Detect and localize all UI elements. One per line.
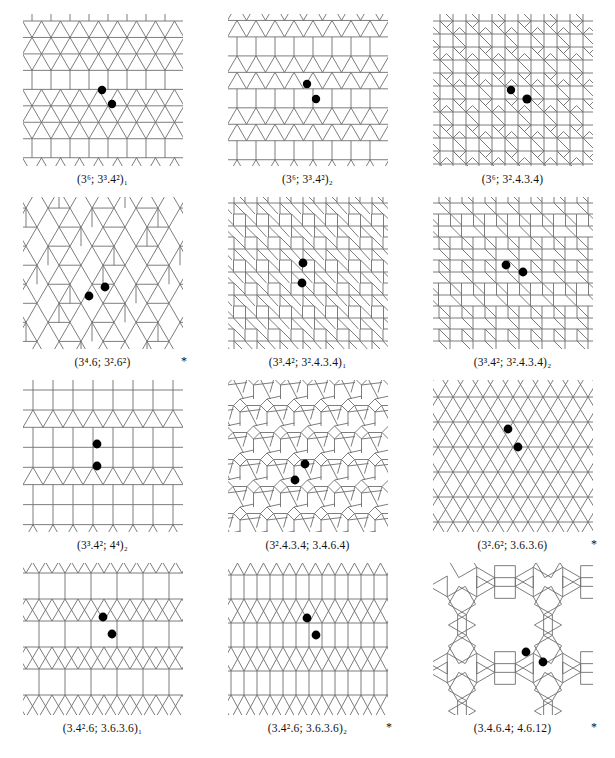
tiling-edge [577,318,588,329]
tiling-edge [326,329,337,340]
tiling-edge [228,563,231,575]
tiling-edge [81,341,92,349]
tiling-edge [368,433,379,454]
tiling-edge [52,563,65,573]
tiling-edge [136,322,147,341]
tiling-edge [245,226,256,237]
tiling-edge [341,72,351,88]
tiling-edge [459,151,466,158]
tiling-edge [246,108,256,124]
tiling-edge [37,208,48,227]
tiling-edge [314,453,321,460]
tiling-edge [485,197,496,202]
tiling-edge [81,265,92,284]
tiling-edge [108,54,118,70]
tiling-edge [576,73,583,80]
tiling-edge [136,303,147,322]
tiling-edge [528,522,543,532]
tiling-edge [515,672,533,682]
tiling-edge [562,662,580,672]
tiling-edge [26,563,39,573]
tiling-edge [383,203,388,214]
tiling-edge [309,563,322,575]
tiling-edge [576,125,583,132]
tiling-edge [59,303,70,322]
tiling-edge [234,249,245,260]
tiling-edge [328,380,335,385]
tiling-edge [303,20,313,36]
tiling-edge [260,487,271,508]
vertex-dot [506,86,514,94]
tiling-edge [155,158,165,166]
tiling-edge [589,80,593,87]
tiling-edge [301,426,308,433]
tiling-edge [284,20,294,36]
tiling-edge [231,563,244,575]
tiling-edge [302,226,312,237]
tiling-edge [573,522,588,532]
tiling-edge [577,249,588,260]
tiling-edge [433,132,434,139]
tiling-edge [485,99,492,106]
tiling-edge [383,272,388,283]
tiling-edge [182,563,183,573]
tiling-edge [48,341,59,349]
tiling-edge [240,453,247,460]
tiling-edge [228,124,237,140]
tiling-edge [60,158,70,166]
tiling-edge [233,487,244,508]
tiling-edge [314,433,325,454]
tiling-edge [508,329,519,340]
tiling-edge [348,272,358,283]
tiling-edge [127,54,137,70]
tiling-edge [228,477,241,480]
tiling-edge [265,56,275,72]
vertex-dot [97,86,105,94]
caption-row-12: (3.4.6.4; 4.6.12) * [410,719,615,737]
tiling-edge [274,433,281,440]
tiling-edge [156,563,169,573]
tiling-edge [79,21,89,37]
tiling-edge [531,260,542,271]
tiling-edge [117,89,127,105]
tiling-edge [165,106,175,122]
tiling-edge [466,54,473,61]
tiling-edge [78,563,91,573]
tiling-edge [133,467,143,484]
tiling-edge [321,410,342,413]
tiling-edge [453,28,460,35]
tiling-edge [341,14,351,20]
caption-row-6: (3³.4²; 3².4.3.4)₂ [410,353,615,371]
tiling-edge [233,514,240,521]
tiling-edge [98,106,108,122]
tiling-edge [37,322,48,341]
tiling-edge [379,14,388,20]
tiling-edge [351,433,355,447]
tiling-edge [562,576,580,586]
tiling-edge [268,203,278,214]
tiling-edge [433,380,438,397]
tiling-edge [534,563,544,578]
tiling-edge [297,433,301,447]
tiling-edge [355,426,362,433]
tiling-edge [158,322,169,341]
tiling-edge [485,260,496,271]
caption-row-3: (3⁶; 3².4.3.4) [410,170,615,188]
tiling-edge [485,80,492,87]
tiling-edge [41,89,51,105]
tiling-edge [127,122,137,138]
tiling-edge [498,21,505,28]
tiling-edge [256,14,266,20]
tiling-edge [485,249,496,260]
tiling-edge [23,106,32,122]
tiling-edge [26,341,37,349]
tiling-edge [43,525,53,532]
caption-12: (3.4.6.4; 4.6.12) [474,721,552,735]
tiling-edge [364,406,368,420]
tiling-edge [78,563,91,573]
tiling-edge [180,322,183,341]
tiling-edge [268,249,278,260]
tiling-edge [476,653,494,663]
tiling-edge [303,203,314,214]
tiling-edge [114,197,125,208]
